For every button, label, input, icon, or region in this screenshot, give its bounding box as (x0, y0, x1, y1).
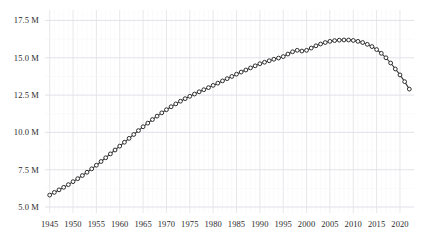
x-axis-tick-label: 1970 (158, 219, 175, 229)
x-axis-tick-label: 1965 (134, 219, 151, 229)
data-point-marker (94, 163, 98, 167)
data-point-marker (375, 48, 379, 52)
data-point-marker (244, 68, 248, 72)
x-axis-tick-label: 2010 (345, 219, 362, 229)
y-axis-tick-label: 5.0 M (0, 202, 39, 212)
data-point-marker (160, 111, 164, 115)
data-point-marker (113, 148, 117, 152)
y-axis-tick-label: 10.0 M (0, 127, 39, 137)
data-point-marker (99, 160, 103, 164)
data-point-marker (221, 79, 225, 83)
x-axis-tick-label: 1985 (228, 219, 245, 229)
data-point-marker (174, 102, 178, 106)
data-point-marker (333, 39, 337, 43)
line-chart: 5.0 M7.5 M10.0 M12.5 M15.0 M17.5 M 19451… (0, 0, 426, 243)
x-axis-tick-label: 1955 (88, 219, 105, 229)
data-point-marker (57, 188, 61, 192)
x-axis-tick-label: 1945 (41, 219, 58, 229)
data-point-marker (384, 56, 388, 60)
data-point-marker (188, 94, 192, 98)
data-point-marker (104, 156, 108, 160)
data-point-marker (48, 193, 52, 197)
data-point-marker (141, 125, 145, 129)
data-point-marker (407, 87, 411, 91)
data-point-marker (347, 38, 351, 42)
y-axis-tick-label: 12.5 M (0, 90, 39, 100)
data-point-marker (286, 52, 290, 56)
data-point-marker (389, 61, 393, 65)
data-point-marker (127, 136, 131, 140)
data-point-marker (216, 81, 220, 85)
data-point-marker (193, 92, 197, 96)
x-axis-tick-label: 2015 (368, 219, 385, 229)
data-point-marker (337, 38, 341, 42)
x-axis-tick-label: 1995 (275, 219, 292, 229)
data-point-marker (305, 48, 309, 52)
x-axis-tick-label: 1990 (251, 219, 268, 229)
data-point-marker (272, 57, 276, 61)
data-point-marker (351, 39, 355, 43)
data-point-marker (365, 42, 369, 46)
data-point-marker (393, 67, 397, 71)
data-point-marker (323, 41, 327, 45)
data-point-marker (85, 170, 89, 174)
data-point-marker (118, 144, 122, 148)
data-point-marker (361, 41, 365, 45)
x-axis-tick-label: 1960 (111, 219, 128, 229)
data-point-marker (379, 51, 383, 55)
data-point-marker (277, 56, 281, 60)
chart-plot-area (0, 0, 426, 243)
x-axis-tick-label: 1975 (181, 219, 198, 229)
data-point-marker (295, 48, 299, 52)
data-point-marker (165, 108, 169, 112)
data-point-marker (71, 180, 75, 184)
data-point-marker (230, 75, 234, 79)
data-point-marker (137, 129, 141, 133)
data-point-marker (132, 133, 136, 137)
data-point-marker (146, 121, 150, 125)
data-point-marker (309, 46, 313, 50)
data-point-marker (235, 72, 239, 76)
data-point-marker (249, 66, 253, 70)
data-point-marker (207, 86, 211, 90)
data-point-marker (370, 45, 374, 49)
data-point-marker (342, 38, 346, 42)
y-axis-tick-label: 17.5 M (0, 15, 39, 25)
data-point-marker (398, 73, 402, 77)
data-point-marker (90, 167, 94, 171)
data-point-marker (258, 62, 262, 66)
data-point-marker (300, 49, 304, 53)
data-point-marker (267, 59, 271, 63)
data-point-marker (66, 183, 70, 187)
data-point-marker (202, 88, 206, 92)
data-point-marker (183, 97, 187, 101)
data-point-marker (291, 50, 295, 54)
data-point-marker (263, 60, 267, 64)
data-point-marker (108, 152, 112, 156)
data-point-marker (197, 90, 201, 94)
data-point-marker (403, 80, 407, 84)
data-point-marker (76, 177, 80, 181)
data-point-marker (80, 174, 84, 178)
data-point-marker (281, 55, 285, 59)
y-axis-tick-label: 15.0 M (0, 53, 39, 63)
x-axis-tick-label: 1950 (64, 219, 81, 229)
data-point-marker (239, 70, 243, 74)
data-point-marker (169, 105, 173, 109)
data-point-marker (328, 39, 332, 43)
data-point-marker (356, 39, 360, 43)
data-point-marker (253, 64, 257, 68)
x-axis-tick-label: 2020 (391, 219, 408, 229)
data-point-marker (319, 42, 323, 46)
data-point-marker (179, 99, 183, 103)
data-point-marker (155, 114, 159, 118)
x-axis-tick-label: 1980 (204, 219, 221, 229)
data-point-marker (62, 185, 66, 189)
data-point-marker (52, 191, 56, 195)
data-point-marker (151, 118, 155, 122)
data-point-marker (314, 44, 318, 48)
y-axis-tick-label: 7.5 M (0, 165, 39, 175)
data-point-marker (211, 83, 215, 87)
x-axis-tick-label: 2005 (321, 219, 338, 229)
data-point-marker (225, 77, 229, 81)
